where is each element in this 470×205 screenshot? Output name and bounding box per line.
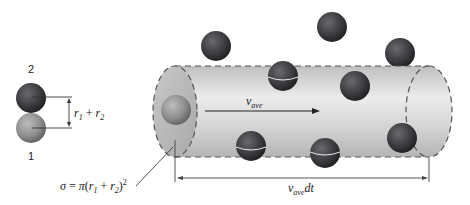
molecule <box>201 31 231 61</box>
molecule <box>310 138 340 168</box>
collision-cylinder-diagram <box>0 0 470 205</box>
molecule-2-label: 2 <box>28 64 34 75</box>
molecule-2 <box>16 83 46 113</box>
molecule <box>317 12 347 42</box>
molecule <box>236 131 266 161</box>
molecule <box>387 123 417 153</box>
molecule-1-in-cylinder <box>161 95 191 125</box>
velocity-label: vave <box>246 95 262 110</box>
molecule <box>340 71 370 101</box>
radius-sum-label: r1 + r2 <box>74 107 104 122</box>
molecule <box>268 61 298 91</box>
molecule-1-label: 1 <box>28 151 34 162</box>
cross-section-formula: σ = π(r1 + r2)2 <box>60 179 127 195</box>
cross-section-leader <box>136 147 173 186</box>
molecule <box>385 38 415 68</box>
length-label: vavedt <box>288 182 314 197</box>
